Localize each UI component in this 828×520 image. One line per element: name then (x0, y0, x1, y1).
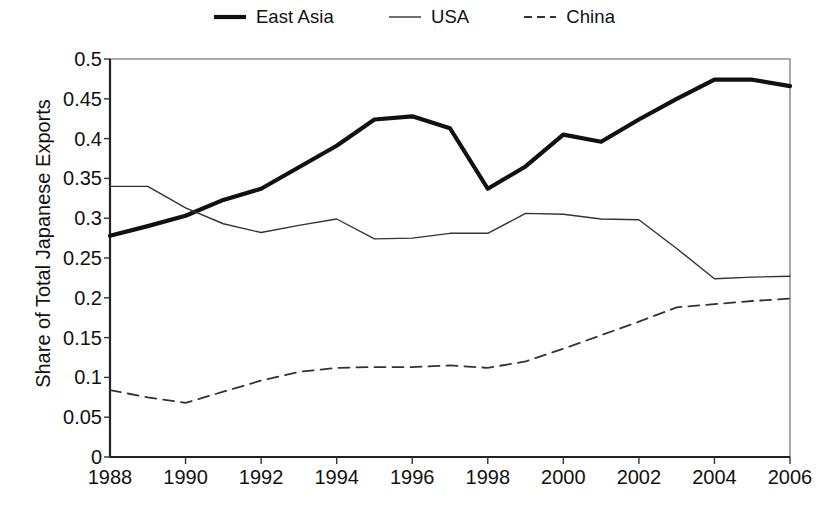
series-line-east-asia (110, 80, 790, 236)
plot-area (0, 0, 828, 520)
line-chart: East Asia USA China Share of Total Japan… (0, 0, 828, 520)
x-axis-tick-label: 1992 (239, 466, 284, 489)
x-axis-tick-label: 2004 (692, 466, 737, 489)
x-axis-tick-label: 1994 (314, 466, 359, 489)
series-line-usa (110, 186, 790, 278)
x-axis-tick-label: 2002 (617, 466, 662, 489)
x-axis-tick-label: 2006 (768, 466, 813, 489)
x-axis-tick-label: 1998 (466, 466, 511, 489)
x-axis-tick-label: 2000 (541, 466, 586, 489)
series-line-china (110, 299, 790, 403)
x-axis-tick-label: 1990 (163, 466, 208, 489)
x-axis-tick-label: 1996 (390, 466, 435, 489)
x-axis-tick-label: 1988 (88, 466, 133, 489)
